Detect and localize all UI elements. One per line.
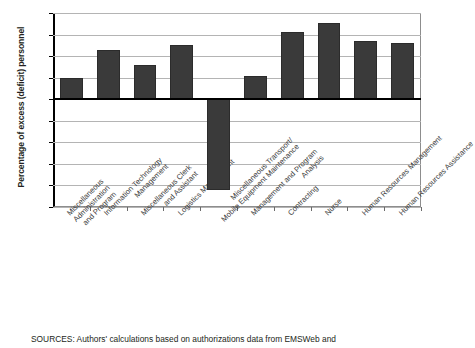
zero-baseline <box>53 98 421 100</box>
plot-area: 403020100–10–20–30–40–50 <box>53 13 421 207</box>
bar <box>354 41 377 99</box>
bar <box>170 45 193 99</box>
source-note: SOURCES: Authors' calculations based on … <box>31 334 429 345</box>
y-axis-title: Percentage of excess (deficit) personnel <box>16 2 26 212</box>
bar <box>207 99 230 190</box>
bar <box>97 50 120 100</box>
bar <box>281 32 304 99</box>
bar <box>244 76 267 100</box>
bar <box>134 65 157 99</box>
bar <box>60 78 83 100</box>
bar-series <box>53 13 421 207</box>
x-axis-labels: MiscellaneousAdministrationand ProgramIn… <box>53 207 431 332</box>
bar <box>318 23 341 100</box>
bar <box>391 43 414 99</box>
